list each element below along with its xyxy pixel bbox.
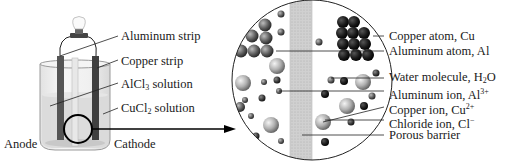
magnified-view: [232, 0, 392, 165]
label-cucl2-solution: CuCl2 solution: [121, 101, 195, 119]
copper-electrode: [92, 56, 99, 140]
voltaic-cell-diagram: Aluminum strip Copper strip AlCl3 soluti…: [0, 0, 518, 165]
label-alcl3-solution: AlCl3 solution: [121, 77, 193, 95]
lightbulb-icon: [73, 17, 86, 30]
aluminum-electrode: [57, 56, 64, 140]
arrow-icon: [224, 125, 236, 133]
label-aluminum-atom: Aluminum atom, Al: [389, 44, 489, 58]
label-aluminum-strip: Aluminum strip: [121, 29, 201, 43]
label-cathode: Cathode: [114, 137, 156, 151]
label-copper-atom: Copper atom, Cu: [389, 29, 475, 43]
porous-barrier: [290, 0, 312, 165]
label-copper-strip: Copper strip: [121, 54, 183, 68]
label-porous-barrier: Porous barrier: [389, 128, 460, 142]
label-anode: Anode: [4, 137, 37, 151]
beaker: [40, 17, 110, 151]
